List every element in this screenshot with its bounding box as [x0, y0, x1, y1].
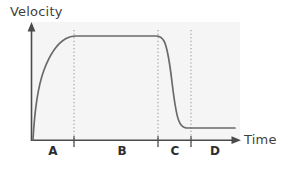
velocity-time-graph: Velocity Time A B C D	[0, 0, 294, 171]
region-label-d: D	[210, 144, 220, 158]
region-label-c: C	[171, 144, 180, 158]
y-axis-label: Velocity	[10, 4, 63, 19]
region-label-b: B	[117, 144, 126, 158]
x-axis-label: Time	[244, 132, 277, 147]
plot-background-tint	[31, 22, 240, 140]
region-label-a: A	[48, 144, 57, 158]
